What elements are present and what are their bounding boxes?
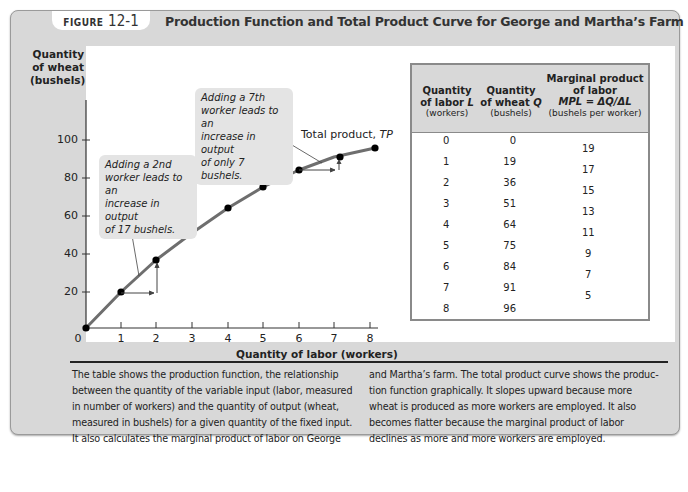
caption-line: in number of workers) and the quantity o… — [72, 399, 352, 415]
caption-line: The table shows the production function,… — [72, 367, 352, 383]
labor-cell: 2 — [443, 177, 449, 188]
labor-cell: 6 — [443, 261, 449, 272]
header-unit: (workers) — [416, 108, 478, 120]
wheat-cell: 51 — [500, 198, 516, 209]
header-line: Quantity — [416, 85, 478, 97]
caption-line: and Martha’s farm. The total product cur… — [369, 367, 659, 383]
wheat-cell: 96 — [500, 303, 516, 314]
wheat-cell: 75 — [500, 240, 516, 251]
mpl-cell: 17 — [582, 164, 595, 175]
header-formula: MPL = ΔQ/ΔL — [559, 96, 632, 107]
callout-7th-worker: Adding a 7th worker leads to an increase… — [195, 88, 293, 185]
header-line: Quantity — [480, 85, 542, 97]
header-var: Q — [533, 97, 542, 108]
mpl-cell: 7 — [585, 269, 591, 280]
mpl-cell: 13 — [582, 206, 595, 217]
callout-line: worker leads to an — [201, 104, 287, 130]
header-unit: (bushels) — [480, 108, 542, 120]
header-labor: Quantity of labor L (workers) — [416, 85, 478, 120]
header-line: Marginal product — [544, 73, 646, 85]
labor-cell: 3 — [443, 198, 449, 209]
mpl-cell: 5 — [585, 290, 591, 301]
callout-line: of 17 bushels. — [105, 223, 191, 236]
caption-divider — [70, 361, 668, 363]
header-line: of labor — [420, 97, 467, 108]
callout-line: Adding a 2nd — [105, 158, 191, 171]
wheat-cell: 91 — [500, 282, 516, 293]
header-var: L — [467, 97, 473, 108]
header-line: of labor — [544, 85, 646, 97]
callout-line: increase in output — [105, 197, 191, 223]
labor-cell: 8 — [443, 303, 449, 314]
labor-cell: 7 — [443, 282, 449, 293]
x-tick-marks — [121, 322, 370, 328]
callout-line: Adding a 7th — [201, 91, 287, 104]
labor-cell: 0 — [443, 135, 449, 146]
labor-cell: 4 — [443, 219, 449, 230]
mpl-cell: 9 — [585, 248, 591, 259]
header-unit: (bushels per worker) — [544, 108, 646, 120]
step-arrow-1-to-2 — [121, 263, 159, 295]
production-table: Quantity of labor L (workers) Quantity o… — [410, 63, 650, 321]
callout-line: worker leads to an — [105, 171, 191, 197]
caption-line: wheat is produced as more workers are em… — [369, 399, 659, 415]
wheat-cell: 64 — [500, 219, 516, 230]
labor-cell: 1 — [443, 156, 449, 167]
wheat-cell: 84 — [500, 261, 516, 272]
curve-label-text: Total product, — [301, 128, 380, 141]
mpl-cell: 11 — [582, 227, 595, 238]
header-line: of wheat — [480, 97, 533, 108]
caption-line: declines as more and more workers are em… — [369, 431, 659, 447]
header-mpl: Marginal product of labor MPL = ΔQ/ΔL (b… — [544, 73, 646, 119]
callout-2nd-worker: Adding a 2nd worker leads to an increase… — [99, 155, 197, 239]
caption-line: It also calculates the marginal product … — [72, 431, 352, 447]
wheat-cell: 19 — [500, 156, 516, 167]
wheat-cell: 0 — [500, 135, 516, 146]
caption-right: and Martha’s farm. The total product cur… — [369, 367, 659, 447]
labor-cell: 5 — [443, 240, 449, 251]
callout-line: of only 7 bushels. — [201, 156, 287, 182]
header-wheat: Quantity of wheat Q (bushels) — [480, 85, 542, 120]
mpl-cell: 19 — [582, 143, 595, 154]
curve-label: Total product, TP — [301, 128, 393, 141]
caption-line: becomes flatter because the marginal pro… — [369, 415, 659, 431]
caption-left: The table shows the production function,… — [72, 367, 352, 447]
curve-label-italic: TP — [380, 128, 393, 141]
callout-line: increase in output — [201, 130, 287, 156]
mpl-cell: 15 — [582, 185, 595, 196]
wheat-cell: 36 — [500, 177, 516, 188]
caption-line: tion function graphically. It slopes upw… — [369, 383, 659, 399]
caption-line: measured in bushels) for a given quantit… — [72, 415, 352, 431]
caption-line: between the quantity of the variable inp… — [72, 383, 352, 399]
